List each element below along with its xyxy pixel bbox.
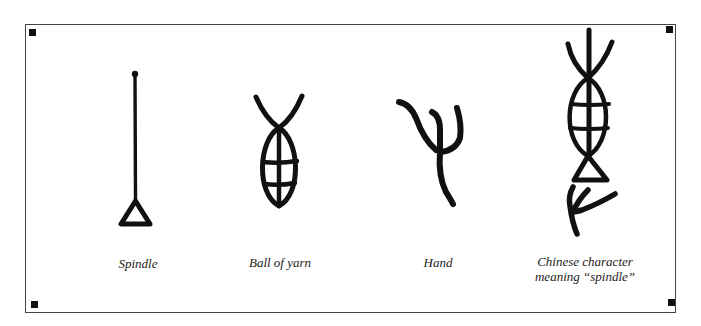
hand-glyph [399, 102, 461, 204]
caption-hand: Hand [413, 255, 463, 270]
spindle-glyph [121, 71, 150, 224]
ball-of-yarn-glyph [256, 96, 302, 206]
caption-chinese-character-line2: meaning “spindle” [520, 269, 650, 284]
caption-spindle: Spindle [108, 256, 168, 271]
caption-ball-of-yarn: Ball of yarn [240, 255, 320, 270]
pictograph-figure: Spindle Ball of yarn Hand Chinese charac… [0, 0, 701, 326]
caption-chinese-character-line1: Chinese character [520, 254, 650, 269]
chinese-spindle-character-glyph [568, 30, 615, 234]
